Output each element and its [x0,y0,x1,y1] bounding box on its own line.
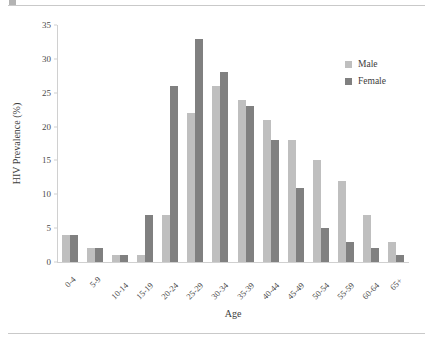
bar-male-50-54[interactable] [313,160,321,262]
x-axis-label-cell: 35-39 [233,264,258,310]
bar-male-10-14[interactable] [112,255,120,262]
chart-legend: MaleFemale [345,60,386,86]
x-axis-tick-label-text: 25-29 [185,281,205,301]
bar-male-15-19[interactable] [137,255,145,262]
bar-female-35-39[interactable] [246,106,254,262]
x-axis-label-cell: 65+ [384,264,409,310]
x-axis-label-cell: 25-29 [183,264,208,310]
bar-male-20-24[interactable] [162,215,170,262]
bar-group [132,25,157,262]
x-axis-label-cell: 60-64 [359,264,384,310]
legend-item-male[interactable]: Male [345,60,386,70]
bar-group [308,25,333,262]
legend-swatch-female-icon [345,78,352,85]
bar-female-30-34[interactable] [220,72,228,262]
bar-male-55-59[interactable] [338,181,346,262]
x-axis-tick-label-text: 5-9 [88,275,102,289]
x-axis-tick-label-text: 60-64 [361,281,381,301]
x-axis-labels: 0-45-910-1415-1920-2425-2930-3435-3940-4… [57,264,409,310]
legend-item-female[interactable]: Female [345,77,386,87]
bar-group [158,25,183,262]
bar-female-45-49[interactable] [296,188,304,262]
bar-male-40-44[interactable] [263,120,271,262]
hiv-prevalence-bar-chart: HIV Prevalence (%) 05101520253035 0-45-9… [0,12,433,322]
y-axis-tick-label: 35 [42,21,51,30]
legend-swatch-male-icon [345,61,352,68]
y-axis-tick-label: 10 [42,190,51,199]
x-axis-tick-label-text: 35-39 [235,281,255,301]
bar-group [183,25,208,262]
x-axis-line [57,262,409,263]
bar-female-25-29[interactable] [195,39,203,262]
y-axis-tick-label: 0 [47,258,52,267]
bar-group [107,25,132,262]
bar-group [258,25,283,262]
y-axis-tick-label: 30 [42,54,51,63]
bar-male-0-4[interactable] [62,235,70,262]
bar-group [384,25,409,262]
bar-group [82,25,107,262]
bar-female-60-64[interactable] [371,248,379,262]
x-axis-tick-label-text: 50-54 [311,281,331,301]
y-axis-tick-label: 5 [47,224,52,233]
x-axis-label-cell: 15-19 [132,264,157,310]
bar-female-5-9[interactable] [95,248,103,262]
bar-male-65+[interactable] [388,242,396,262]
x-axis-label-cell: 10-14 [107,264,132,310]
y-axis-tick-label: 15 [42,156,51,165]
y-axis-title: HIV Prevalence (%) [10,25,24,262]
page-rule-top [8,5,425,6]
bar-female-50-54[interactable] [321,228,329,262]
x-axis-label-cell: 0-4 [57,264,82,310]
y-axis-title-text: HIV Prevalence (%) [12,103,23,184]
bar-male-60-64[interactable] [363,215,371,262]
bar-male-5-9[interactable] [87,248,95,262]
x-axis-tick-label-text: 15-19 [135,281,155,301]
x-axis-tick-label-text: 40-44 [260,281,280,301]
x-axis-label-cell: 5-9 [82,264,107,310]
bar-group [57,25,82,262]
bar-male-35-39[interactable] [238,100,246,263]
x-axis-tick-label-text: 20-24 [160,281,180,301]
x-axis-tick-label-text: 10-14 [110,281,130,301]
legend-label: Male [358,60,378,70]
bar-male-30-34[interactable] [212,86,220,262]
bar-female-0-4[interactable] [70,235,78,262]
y-axis-tick-label: 20 [42,122,51,131]
legend-label: Female [358,77,386,87]
bar-group [208,25,233,262]
bar-female-55-59[interactable] [346,242,354,262]
bar-male-45-49[interactable] [288,140,296,262]
y-axis-tick-label: 25 [42,88,51,97]
x-axis-label-cell: 55-59 [334,264,359,310]
bar-group [283,25,308,262]
bar-male-25-29[interactable] [187,113,195,262]
bar-female-40-44[interactable] [271,140,279,262]
page-rule-bottom [8,333,425,334]
x-axis-tick-label-text: 45-49 [286,281,306,301]
x-axis-tick-label: 65+ [398,267,413,282]
x-axis-tick-label-text: 30-34 [210,281,230,301]
bar-female-15-19[interactable] [145,215,153,262]
bar-female-65+[interactable] [396,255,404,262]
figure-page: HIV Prevalence (%) 05101520253035 0-45-9… [0,0,433,342]
x-axis-label-cell: 40-44 [258,264,283,310]
bar-female-10-14[interactable] [120,255,128,262]
x-axis-label-cell: 20-24 [158,264,183,310]
x-axis-label-cell: 30-34 [208,264,233,310]
bar-group [233,25,258,262]
x-axis-tick-label-text: 55-59 [336,281,356,301]
x-axis-title: Age [57,308,409,319]
x-axis-label-cell: 50-54 [308,264,333,310]
bar-female-20-24[interactable] [170,86,178,262]
x-axis-tick-label-text: 65+ [389,276,404,291]
x-axis-label-cell: 45-49 [283,264,308,310]
x-axis-tick-label-text: 0-4 [63,275,77,289]
